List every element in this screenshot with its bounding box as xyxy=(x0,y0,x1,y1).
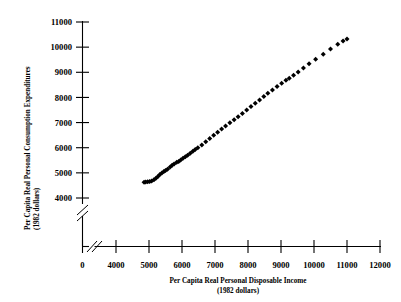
y-tick-label: 9000 xyxy=(55,67,72,77)
y-tick-label: 8000 xyxy=(55,93,72,103)
y-axis-title: Per Capita Real Personal Consumption Exp… xyxy=(24,66,32,230)
x-tick-label: 6000 xyxy=(173,260,190,270)
x-axis-title: Per Capita Real Personal Disposable Inco… xyxy=(169,277,306,285)
data-point xyxy=(207,136,212,141)
x-tick-label: 4000 xyxy=(107,260,124,270)
data-point xyxy=(321,52,326,57)
chart-figure: 4000500060007000800090001000011000 04000… xyxy=(0,0,401,302)
data-point xyxy=(261,94,266,99)
y-tick-label: 5000 xyxy=(55,168,72,178)
data-point xyxy=(232,117,237,122)
x-axis-ticks: 0400050006000700080009000100001100012000 xyxy=(80,240,390,270)
data-point xyxy=(253,101,258,106)
data-point xyxy=(335,42,340,47)
data-point xyxy=(227,120,232,125)
data-point xyxy=(257,97,262,102)
scatter-plot-svg: 4000500060007000800090001000011000 04000… xyxy=(0,0,401,302)
x-tick-label: 12000 xyxy=(369,260,390,270)
data-point xyxy=(275,84,280,89)
data-point xyxy=(236,114,241,119)
data-point xyxy=(307,61,312,66)
x-tick-label: 10000 xyxy=(303,260,324,270)
data-point xyxy=(313,57,318,62)
y-tick-label: 4000 xyxy=(55,193,72,203)
data-point xyxy=(270,87,275,92)
data-point xyxy=(301,66,306,71)
y-axis-ticks: 4000500060007000800090001000011000 xyxy=(51,17,89,203)
data-point xyxy=(223,124,228,129)
x-tick-label: 5000 xyxy=(140,260,157,270)
y-tick-label: 11000 xyxy=(51,17,72,27)
x-tick-label: 8000 xyxy=(239,260,256,270)
data-point xyxy=(265,91,270,96)
data-point xyxy=(279,81,284,86)
data-point xyxy=(219,127,224,132)
data-point xyxy=(244,108,249,113)
x-axis-title-units: (1982 dollars) xyxy=(217,287,260,295)
data-point xyxy=(203,139,208,144)
y-axis-title-units: (1982 dollars) xyxy=(33,187,41,230)
data-point xyxy=(211,133,216,138)
data-point xyxy=(248,104,253,109)
data-point xyxy=(296,70,301,75)
data-point xyxy=(328,46,333,51)
data-point xyxy=(199,142,204,147)
data-point xyxy=(240,111,245,116)
x-tick-label: 0 xyxy=(80,260,84,270)
data-point xyxy=(215,130,220,135)
y-tick-label: 7000 xyxy=(55,118,72,128)
x-tick-label: 7000 xyxy=(206,260,223,270)
data-point xyxy=(291,73,296,78)
x-tick-label: 11000 xyxy=(336,260,357,270)
y-tick-label: 6000 xyxy=(55,143,72,153)
y-tick-label: 10000 xyxy=(51,42,72,52)
data-point-group xyxy=(142,37,350,185)
x-tick-label: 9000 xyxy=(272,260,289,270)
